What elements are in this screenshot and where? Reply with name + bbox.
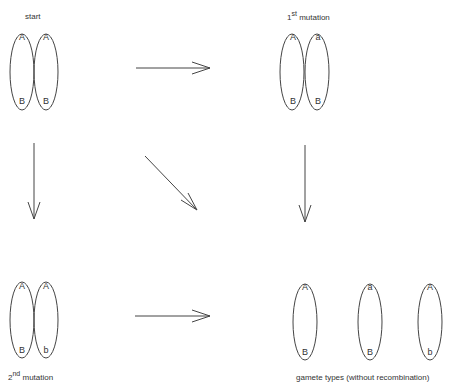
allele: a bbox=[367, 282, 372, 292]
arrow-diagonal-icon bbox=[145, 156, 197, 210]
allele: B bbox=[19, 96, 25, 106]
arrow-right-top-icon bbox=[136, 62, 210, 74]
genetics-diagram: A B A B A B a B A B A b A B a B A b bbox=[0, 0, 452, 387]
allele: B bbox=[290, 96, 296, 106]
allele: B bbox=[367, 347, 373, 357]
arrow-down-left-icon bbox=[28, 143, 40, 219]
allele: b bbox=[43, 345, 48, 355]
allele: a bbox=[315, 32, 320, 42]
allele: B bbox=[43, 96, 49, 106]
allele: B bbox=[315, 96, 321, 106]
allele: A bbox=[43, 281, 49, 291]
allele: A bbox=[302, 282, 308, 292]
arrow-right-bottom-icon bbox=[135, 310, 210, 322]
allele: A bbox=[19, 32, 25, 42]
arrow-down-right-icon bbox=[299, 145, 311, 222]
allele: B bbox=[19, 345, 25, 355]
allele: B bbox=[302, 347, 308, 357]
allele: A bbox=[43, 32, 49, 42]
allele: A bbox=[19, 281, 25, 291]
allele: A bbox=[427, 282, 433, 292]
allele: A bbox=[290, 32, 296, 42]
allele: b bbox=[427, 347, 432, 357]
